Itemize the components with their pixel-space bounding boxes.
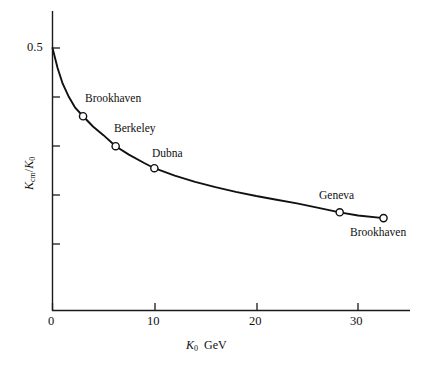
data-point-markers bbox=[79, 113, 387, 222]
chart-figure: 0.5 0 10 20 30 Brookhaven Berkeley Dubna… bbox=[0, 0, 429, 365]
data-point-marker bbox=[79, 113, 86, 120]
data-point-marker bbox=[380, 215, 387, 222]
y-axis-ticks bbox=[53, 48, 61, 244]
data-point-marker bbox=[151, 165, 158, 172]
axis-lines bbox=[52, 11, 410, 311]
chart-plot-area bbox=[0, 0, 429, 365]
data-series-curve bbox=[53, 48, 384, 218]
data-point-marker bbox=[336, 209, 343, 216]
data-point-marker bbox=[112, 143, 119, 150]
x-axis-ticks bbox=[53, 303, 359, 311]
